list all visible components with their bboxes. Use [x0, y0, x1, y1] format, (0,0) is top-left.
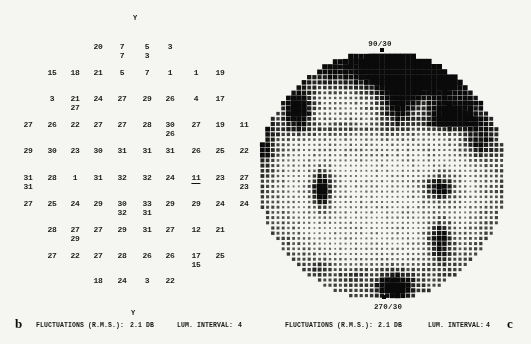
sensitivity-value: 2723 [239, 173, 248, 191]
sensitivity-value: 30 [47, 146, 56, 155]
lum-interval-label-b: LUM. INTERVAL: [177, 322, 233, 330]
sensitivity-value: 24 [239, 199, 248, 208]
sensitivity-value: 21 [215, 225, 224, 234]
sensitivity-value: 29 [165, 199, 174, 208]
sensitivity-value: 24 [117, 276, 126, 285]
fluctuations-value-c: 2.1 DB [378, 322, 402, 330]
lum-interval-label-c: LUM. INTERVAL: [428, 322, 484, 330]
sensitivity-value: 26 [47, 120, 56, 129]
sensitivity-value: 27 [93, 225, 102, 234]
sensitivity-value: 11 [239, 120, 248, 129]
sensitivity-value: 5 [120, 68, 125, 77]
sensitivity-value: 27 [117, 120, 126, 129]
sensitivity-value: 77 [120, 42, 125, 60]
perimetry-scan-page: Y 20775331518215711193212724272926417272… [0, 0, 531, 344]
sensitivity-value: 28 [47, 173, 56, 182]
sensitivity-value: 28 [47, 225, 56, 234]
panel-c-letter: c [507, 317, 513, 330]
sensitivity-value: 31 [142, 146, 151, 155]
sensitivity-value: 12 [191, 225, 200, 234]
sensitivity-value: 27 [93, 120, 102, 129]
sensitivity-value: 3 [145, 276, 150, 285]
sensitivity-value: 30 [93, 146, 102, 155]
sensitivity-value: 29 [23, 146, 32, 155]
sensitivity-value: 22 [70, 120, 79, 129]
sensitivity-value: 27 [117, 94, 126, 103]
sensitivity-value: 3026 [165, 120, 174, 138]
sensitivity-value: 27 [23, 199, 32, 208]
sensitivity-value: 25 [215, 251, 224, 260]
fluctuations-label-b: FLUCTUATIONS (R.M.S.): [36, 322, 124, 330]
sensitivity-value: 31 [165, 146, 174, 155]
sensitivity-value: 3032 [117, 199, 126, 217]
y-meridian-label-top: Y [133, 14, 137, 22]
sensitivity-value: 22 [165, 276, 174, 285]
sensitivity-value: 15 [47, 68, 56, 77]
sensitivity-value: 26 [165, 251, 174, 260]
meridian-label-90-30: 90/30 [368, 40, 392, 48]
sensitivity-value: 27 [191, 120, 200, 129]
sensitivity-value: 1715 [191, 251, 200, 269]
sensitivity-value: 27 [165, 225, 174, 234]
sensitivity-value: 24 [70, 199, 79, 208]
sensitivity-value: 22 [239, 146, 248, 155]
grayscale-field-plot [0, 0, 531, 344]
sensitivity-value: 25 [47, 199, 56, 208]
sensitivity-value: 3 [168, 42, 173, 51]
sensitivity-value: 31 [117, 146, 126, 155]
sensitivity-value: 26 [165, 94, 174, 103]
sensitivity-value: 11 [191, 173, 200, 182]
sensitivity-value: 2127 [70, 94, 79, 112]
sensitivity-value: 23 [70, 146, 79, 155]
sensitivity-value: 29 [93, 199, 102, 208]
sensitivity-value: 26 [191, 146, 200, 155]
sensitivity-value: 24 [165, 173, 174, 182]
sensitivity-value: 32 [117, 173, 126, 182]
sensitivity-value: 29 [142, 94, 151, 103]
sensitivity-value: 2729 [70, 225, 79, 243]
sensitivity-value: 29 [191, 199, 200, 208]
lum-interval-value-c: 4 [486, 322, 490, 330]
sensitivity-value: 25 [215, 146, 224, 155]
sensitivity-value: 3131 [23, 173, 32, 191]
sensitivity-value: 31 [142, 225, 151, 234]
sensitivity-value: 22 [70, 251, 79, 260]
sensitivity-value: 21 [93, 68, 102, 77]
sensitivity-value: 28 [142, 120, 151, 129]
lum-interval-value-b: 4 [238, 322, 242, 330]
fluctuations-value-b: 2.1 DB [130, 322, 154, 330]
sensitivity-value: 7 [145, 68, 150, 77]
y-meridian-label-bottom: Y [131, 309, 135, 317]
sensitivity-value: 3 [50, 94, 55, 103]
sensitivity-value: 3331 [142, 199, 151, 217]
sensitivity-value: 1 [73, 173, 78, 182]
sensitivity-value: 27 [23, 120, 32, 129]
sensitivity-value: 20 [93, 42, 102, 51]
sensitivity-value: 1 [194, 68, 199, 77]
sensitivity-value: 29 [117, 225, 126, 234]
sensitivity-value: 27 [47, 251, 56, 260]
sensitivity-value: 18 [93, 276, 102, 285]
sensitivity-value: 18 [70, 68, 79, 77]
sensitivity-value: 31 [93, 173, 102, 182]
sensitivity-value: 53 [145, 42, 150, 60]
sensitivity-value: 4 [194, 94, 199, 103]
panel-b-letter: b [15, 317, 22, 330]
sensitivity-value: 23 [215, 173, 224, 182]
sensitivity-value: 27 [93, 251, 102, 260]
fluctuations-label-c: FLUCTUATIONS (R.M.S.): [285, 322, 373, 330]
sensitivity-value: 1 [168, 68, 173, 77]
sensitivity-value: 17 [215, 94, 224, 103]
meridian-label-270-30: 270/30 [374, 303, 402, 311]
sensitivity-value: 24 [215, 199, 224, 208]
sensitivity-value: 32 [142, 173, 151, 182]
sensitivity-value: 26 [142, 251, 151, 260]
sensitivity-value: 24 [93, 94, 102, 103]
sensitivity-value: 28 [117, 251, 126, 260]
sensitivity-value: 19 [215, 120, 224, 129]
sensitivity-value: 19 [215, 68, 224, 77]
